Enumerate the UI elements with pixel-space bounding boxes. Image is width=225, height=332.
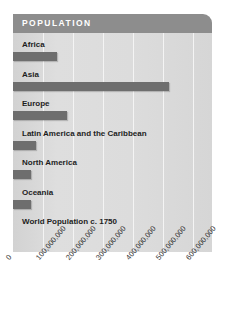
chart-header-band: POPULATION — [13, 14, 212, 33]
bar-row: Oceania — [13, 187, 212, 217]
bar-row: North America — [13, 157, 212, 187]
bar-row: Latin America and the Caribbean — [13, 128, 212, 158]
bar — [13, 141, 36, 150]
bar-row: Africa — [13, 39, 212, 69]
bar-label: Oceania — [22, 187, 53, 198]
chart-plot-area: AfricaAsiaEuropeLatin America and the Ca… — [13, 33, 212, 252]
bar-row: Europe — [13, 98, 212, 128]
bar-row: Asia — [13, 69, 212, 99]
bar — [13, 52, 57, 61]
chart-title: POPULATION — [22, 18, 92, 29]
bar — [13, 82, 169, 91]
bar-label: Europe — [22, 98, 50, 109]
x-tick-label: 0 — [4, 253, 14, 262]
bar-label: Latin America and the Caribbean — [22, 128, 147, 139]
bar — [13, 111, 67, 120]
bar — [13, 170, 31, 179]
bar — [13, 200, 31, 209]
bar-label: Africa — [22, 39, 45, 50]
population-chart-figure: POPULATION AfricaAsiaEuropeLatin America… — [0, 0, 225, 332]
bar-label: Asia — [22, 69, 39, 80]
world-population-note: World Population c. 1750 — [22, 216, 117, 227]
bar-label: North America — [22, 157, 77, 168]
